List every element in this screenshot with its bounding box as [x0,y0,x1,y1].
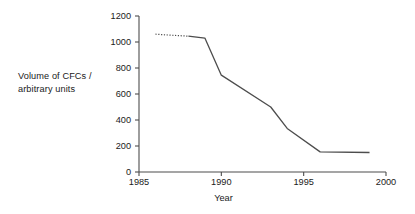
x-axis-tick-label: 1985 [117,177,161,187]
y-axis-tick-label: 1000 [97,37,131,47]
y-axis-tick-label: 200 [97,141,131,151]
x-axis-tick-label: 2000 [364,177,408,187]
y-axis-tick-label: 0 [97,167,131,177]
cfc-volume-line-chart: Volume of CFCs / arbitrary units Year 02… [0,0,415,214]
data-series-1 [188,36,369,152]
y-axis-tick-label: 1200 [97,11,131,21]
y-axis-tick-label: 800 [97,63,131,73]
data-series-0 [155,34,188,36]
x-axis-tick-label: 1990 [199,177,243,187]
x-axis-tick-label: 1995 [282,177,326,187]
y-axis-tick-label: 400 [97,115,131,125]
y-axis-tick-label: 600 [97,89,131,99]
